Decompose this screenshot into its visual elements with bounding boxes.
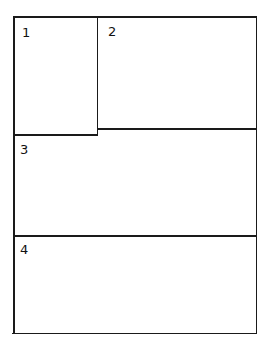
region-3-label: 3	[20, 143, 28, 156]
outer-border-top	[13, 16, 257, 18]
outer-border-right	[256, 16, 258, 334]
outer-border-left	[13, 16, 15, 334]
divider-2-3	[97, 128, 257, 130]
divider-1-3	[13, 134, 98, 136]
divider-3-4	[13, 235, 257, 237]
region-2-label: 2	[108, 25, 116, 38]
divider-1-2	[97, 16, 99, 135]
region-4-label: 4	[20, 243, 28, 256]
region-1-label: 1	[22, 26, 30, 39]
outer-border-bottom	[12, 333, 257, 335]
